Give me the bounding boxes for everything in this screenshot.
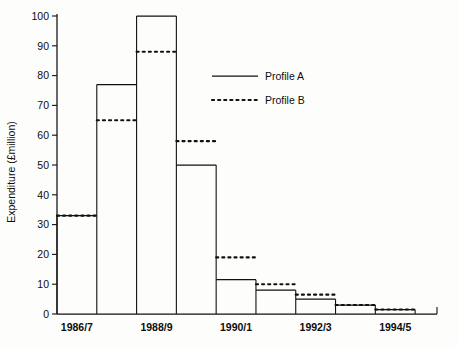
y-tick-label: 0 <box>43 308 49 320</box>
y-tick-label: 40 <box>37 189 49 201</box>
x-tick-label: 1994/5 <box>379 321 411 333</box>
data-series <box>57 16 415 310</box>
y-axis-title-text: Expenditure (£million) <box>5 121 17 223</box>
legend-label: Profile A <box>265 70 304 82</box>
legend-entry: Profile B <box>212 94 305 106</box>
legend-entry: Profile A <box>212 70 304 82</box>
x-axis: 1986/71988/91990/11992/31994/5 <box>57 307 437 333</box>
y-tick-label: 20 <box>37 248 49 260</box>
x-tick-label: 1990/1 <box>220 321 252 333</box>
y-tick-label: 50 <box>37 159 49 171</box>
y-tick-label: 10 <box>37 278 49 290</box>
y-axis-title: Expenditure (£million) <box>5 121 17 223</box>
chart-legend: Profile AProfile B <box>212 70 305 106</box>
y-tick-label: 60 <box>37 129 49 141</box>
y-tick-label: 80 <box>37 69 49 81</box>
x-tick-label: 1986/7 <box>61 321 93 333</box>
y-tick-label: 90 <box>37 40 49 52</box>
expenditure-step-chart: 0102030405060708090100 1986/71988/91990/… <box>0 0 458 348</box>
chart-figure: 0102030405060708090100 1986/71988/91990/… <box>0 0 458 348</box>
series-profile-b <box>57 52 415 310</box>
series-profile-a <box>57 16 415 310</box>
y-tick-label: 100 <box>31 10 49 22</box>
y-axis: 0102030405060708090100 <box>31 10 57 320</box>
category-separators <box>57 16 415 314</box>
y-tick-label: 30 <box>37 218 49 230</box>
y-tick-label: 70 <box>37 99 49 111</box>
legend-label: Profile B <box>265 94 305 106</box>
x-tick-label: 1992/3 <box>300 321 332 333</box>
x-tick-label: 1988/9 <box>140 321 172 333</box>
